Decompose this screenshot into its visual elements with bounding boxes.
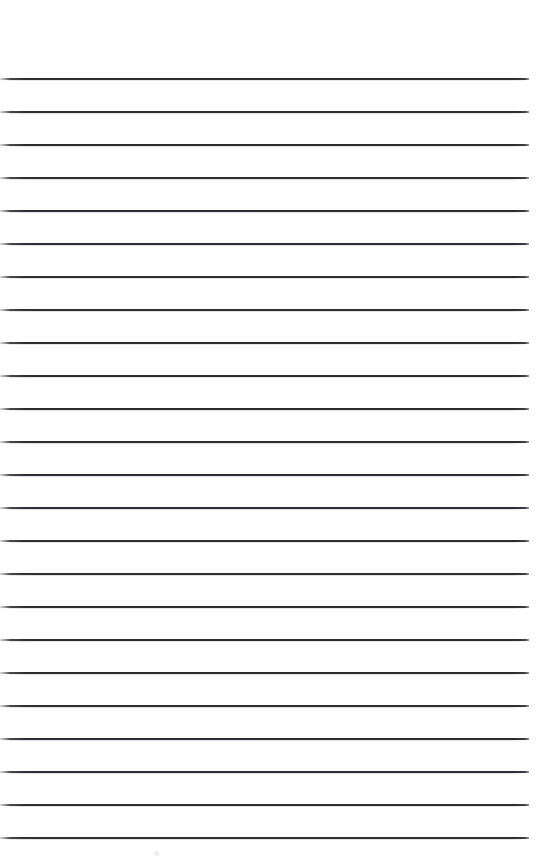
ruled-line-stroke <box>0 408 529 410</box>
ruled-line-halo <box>0 179 529 180</box>
ruled-line-halo <box>0 113 529 114</box>
ruled-line-halo <box>0 641 529 642</box>
ruled-line <box>0 441 529 443</box>
ruled-line <box>0 78 529 80</box>
ruled-line-halo <box>0 608 529 609</box>
ruled-line <box>0 408 529 410</box>
ruled-line-halo <box>0 377 529 378</box>
ruled-line-halo <box>0 509 529 510</box>
ruled-line-stroke <box>0 837 529 839</box>
ruled-line-halo <box>0 212 529 213</box>
ruled-line <box>0 474 529 476</box>
ruled-line <box>0 705 529 707</box>
ruled-line-halo <box>0 806 529 807</box>
ruled-line-stroke <box>0 210 529 212</box>
ruled-line-stroke <box>0 771 529 773</box>
ruled-line-halo <box>0 80 529 81</box>
ruled-line-halo <box>0 839 529 840</box>
ruled-line-stroke <box>0 573 529 575</box>
ruled-line-halo <box>0 542 529 543</box>
ruled-line-halo <box>0 146 529 147</box>
ruled-line-stroke <box>0 705 529 707</box>
notebook-page <box>0 0 536 863</box>
ruled-line-stroke <box>0 309 529 311</box>
ruled-line-halo <box>0 740 529 741</box>
ruled-line <box>0 540 529 542</box>
ruled-line-halo <box>0 575 529 576</box>
ruled-line-stroke <box>0 606 529 608</box>
ruled-line <box>0 672 529 674</box>
ruled-line-stroke <box>0 507 529 509</box>
ruled-line <box>0 639 529 641</box>
ruled-line-stroke <box>0 177 529 179</box>
ruled-line-stroke <box>0 738 529 740</box>
ruled-line-stroke <box>0 144 529 146</box>
ruled-line-halo <box>0 344 529 345</box>
ruled-line-stroke <box>0 78 529 80</box>
ruled-line-stroke <box>0 243 529 245</box>
ruled-line-halo <box>0 245 529 246</box>
ruled-line <box>0 177 529 179</box>
ruled-line <box>0 111 529 113</box>
ruled-line <box>0 573 529 575</box>
ruled-line <box>0 342 529 344</box>
ruled-line-halo <box>0 674 529 675</box>
ruled-line-halo <box>0 443 529 444</box>
ruled-line <box>0 144 529 146</box>
ruled-line-stroke <box>0 474 529 476</box>
ruled-line <box>0 837 529 839</box>
ruled-line <box>0 738 529 740</box>
ruled-line-stroke <box>0 276 529 278</box>
ruled-line-stroke <box>0 375 529 377</box>
ruled-line-stroke <box>0 441 529 443</box>
paper-smudge <box>153 850 160 857</box>
ruled-line <box>0 210 529 212</box>
ruled-line-stroke <box>0 672 529 674</box>
ruled-line-halo <box>0 476 529 477</box>
ruled-line-stroke <box>0 342 529 344</box>
ruled-line-halo <box>0 773 529 774</box>
ruled-line-halo <box>0 410 529 411</box>
ruled-line-stroke <box>0 540 529 542</box>
ruled-line-stroke <box>0 111 529 113</box>
ruled-line <box>0 243 529 245</box>
ruled-line <box>0 606 529 608</box>
ruled-line-halo <box>0 707 529 708</box>
ruled-line <box>0 375 529 377</box>
ruled-line <box>0 309 529 311</box>
ruled-line <box>0 507 529 509</box>
ruled-line <box>0 276 529 278</box>
ruled-line-halo <box>0 278 529 279</box>
ruled-line-stroke <box>0 804 529 806</box>
ruled-line-halo <box>0 311 529 312</box>
ruled-line <box>0 804 529 806</box>
ruled-line-stroke <box>0 639 529 641</box>
ruled-line <box>0 771 529 773</box>
